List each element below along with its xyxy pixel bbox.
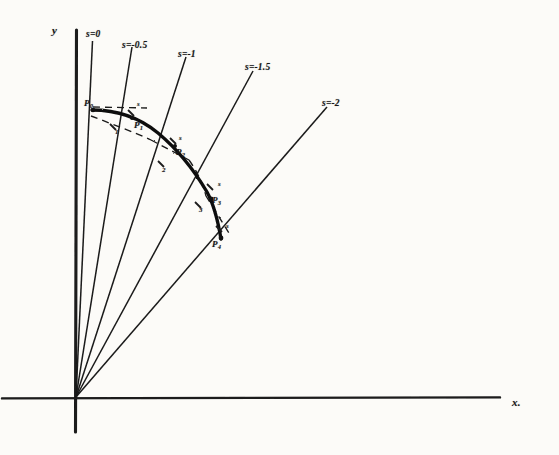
point-label-p0-sub: 0 [90, 102, 93, 109]
tick-label-5: 3 [199, 206, 203, 214]
point-label-p4: P4 [212, 239, 221, 250]
ray-label-s-1: s=-1 [178, 49, 196, 59]
point-label-p1: P1 [134, 120, 143, 131]
point-label-p4-sub: 4 [218, 243, 221, 250]
point-label-p2: P2 [176, 147, 185, 158]
tick-label-2: s [179, 134, 182, 142]
tick-marks [110, 110, 222, 232]
point-label-p3-sub: 3 [218, 199, 221, 206]
figure-canvas: y x. s=0 s=-0.5 s=-1 s=-1.5 s=-2 P0 P1 P… [0, 0, 559, 455]
tick-label-6: s [226, 222, 229, 230]
tick-label-0: s [137, 100, 140, 108]
sketch-drawing [0, 0, 559, 455]
point-label-p2-sub: 2 [182, 151, 185, 158]
point-label-p1-sub: 1 [140, 124, 143, 131]
tick-label-1: 1 [115, 128, 119, 136]
point-label-p3: P3 [212, 195, 221, 206]
ray-label-s-2: s=-2 [322, 98, 340, 108]
x-axis-label: x. [512, 396, 521, 408]
ray-s-2 [76, 107, 327, 397]
ray-label-s-0.5: s=-0.5 [122, 40, 147, 50]
y-axis [76, 30, 77, 432]
point-label-p0: P0 [84, 98, 93, 109]
ray-lines [76, 41, 327, 397]
curve-point-markers [91, 108, 224, 241]
y-axis-label: y [52, 24, 57, 36]
tick-label-3: 2 [162, 166, 166, 174]
ray-label-s-1.5: s=-1.5 [245, 62, 270, 72]
ray-label-s-0: s=0 [86, 29, 100, 39]
tick-label-4: s [218, 180, 221, 188]
x-axis [2, 397, 500, 398]
